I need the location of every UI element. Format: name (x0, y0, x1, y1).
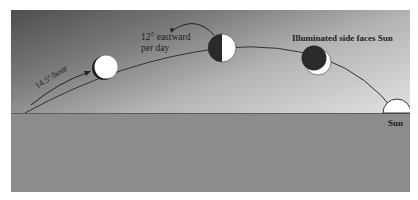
moon-1 (92, 56, 118, 81)
daily-shift-label-line2: per day (141, 43, 169, 53)
moon-2 (208, 34, 236, 62)
arrowhead-icon (84, 71, 91, 76)
moon-3 (302, 46, 332, 76)
moon-path-arc (25, 47, 396, 113)
sun-label: Sun (388, 118, 403, 128)
illumination-note: Illuminated side faces Sun (292, 33, 393, 43)
diagram-frame: 14.5°/hour 12° eastward per day Illumina… (11, 10, 410, 192)
daily-shift-label-line1: 12° eastward (141, 32, 190, 42)
